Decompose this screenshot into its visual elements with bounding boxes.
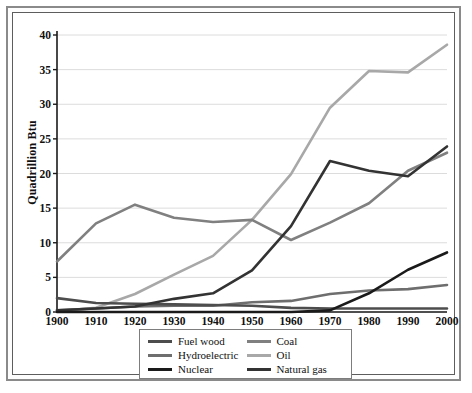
y-tick-label: 30 xyxy=(17,98,51,110)
x-tick-label: 1940 xyxy=(191,315,235,327)
x-tick-label: 1970 xyxy=(308,315,352,327)
y-tick-label: 40 xyxy=(17,29,51,41)
x-tick-label: 1930 xyxy=(152,315,196,327)
legend-swatch-icon xyxy=(148,354,172,357)
legend-item[interactable]: Natural gas xyxy=(247,363,346,375)
y-tick-label: 15 xyxy=(17,202,51,214)
legend-swatch-icon xyxy=(148,368,172,371)
x-tick-label: 1960 xyxy=(269,315,313,327)
figure-inner-frame: Quadrillion Btu 0510152025303540 1900191… xyxy=(12,12,455,375)
legend-swatch-icon xyxy=(148,340,172,343)
x-tick-label: 1920 xyxy=(113,315,157,327)
x-tick-label: 1950 xyxy=(230,315,274,327)
legend-item[interactable]: Hydroelectric xyxy=(148,349,247,361)
legend-swatch-icon xyxy=(247,340,271,343)
legend-label: Coal xyxy=(277,335,298,347)
x-tick-label: 1980 xyxy=(347,315,391,327)
legend-swatch-icon xyxy=(247,354,271,357)
legend-item[interactable]: Oil xyxy=(247,349,346,361)
x-tick-label: 2000 xyxy=(425,315,469,327)
chart-legend: Fuel woodCoalHydroelectricOilNuclearNatu… xyxy=(139,329,352,379)
legend-label: Nuclear xyxy=(178,363,213,375)
legend-grid: Fuel woodCoalHydroelectricOilNuclearNatu… xyxy=(148,334,345,376)
y-tick-label: 5 xyxy=(17,271,51,283)
y-tick-label: 10 xyxy=(17,237,51,249)
legend-label: Fuel wood xyxy=(178,335,225,347)
legend-item[interactable]: Coal xyxy=(247,335,346,347)
y-tick-label: 20 xyxy=(17,168,51,180)
x-tick-label: 1990 xyxy=(386,315,430,327)
series-line-natural-gas xyxy=(57,146,447,310)
axis-lines xyxy=(53,31,447,312)
y-axis-title: Quadrillion Btu xyxy=(25,68,40,258)
legend-item[interactable]: Fuel wood xyxy=(148,335,247,347)
figure-outer-frame: Quadrillion Btu 0510152025303540 1900191… xyxy=(6,6,461,381)
legend-label: Hydroelectric xyxy=(178,349,238,361)
series-line-coal xyxy=(57,153,447,262)
x-tick-label: 1910 xyxy=(74,315,118,327)
legend-swatch-icon xyxy=(247,368,271,371)
chart-stage: Quadrillion Btu 0510152025303540 1900191… xyxy=(13,13,458,378)
legend-label: Natural gas xyxy=(277,363,327,375)
legend-item[interactable]: Nuclear xyxy=(148,363,247,375)
y-tick-label: 35 xyxy=(17,64,51,76)
x-tick-label: 1900 xyxy=(35,315,79,327)
legend-label: Oil xyxy=(277,349,291,361)
data-series-layer xyxy=(57,45,447,312)
y-tick-label: 25 xyxy=(17,133,51,145)
